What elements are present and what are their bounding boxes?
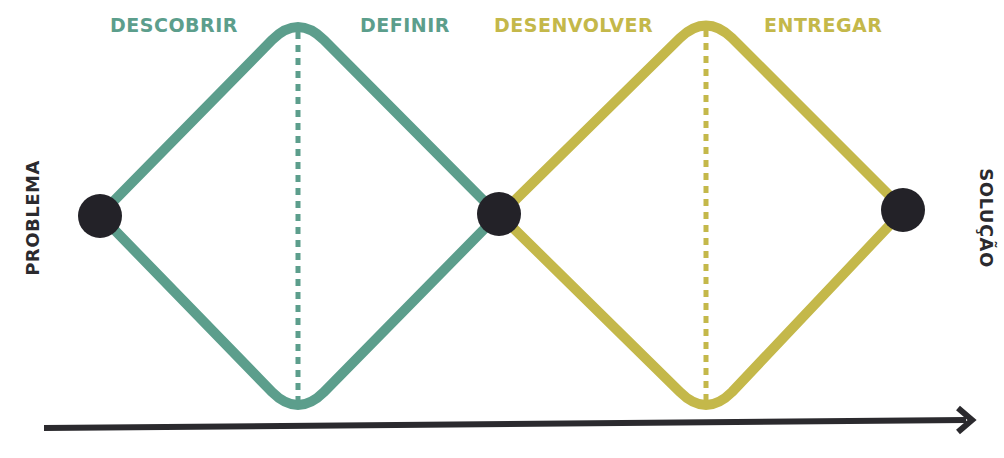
timeline-arrow-shaft bbox=[44, 420, 966, 428]
start-label-problema: PROBLEMA bbox=[22, 160, 43, 276]
phase-label-desenvolver: DESENVOLVER bbox=[494, 14, 653, 36]
node-start bbox=[78, 194, 122, 238]
phase-label-descobrir: DESCOBRIR bbox=[110, 14, 238, 36]
double-diamond-diagram bbox=[0, 0, 1004, 458]
node-middle bbox=[477, 192, 521, 236]
node-end bbox=[881, 188, 925, 232]
phase-label-definir: DEFINIR bbox=[360, 14, 450, 36]
phase-label-entregar: ENTREGAR bbox=[764, 14, 882, 36]
diamond-develop-deliver bbox=[500, 26, 904, 406]
end-label-solucao: SOLUÇÃO bbox=[976, 168, 997, 268]
